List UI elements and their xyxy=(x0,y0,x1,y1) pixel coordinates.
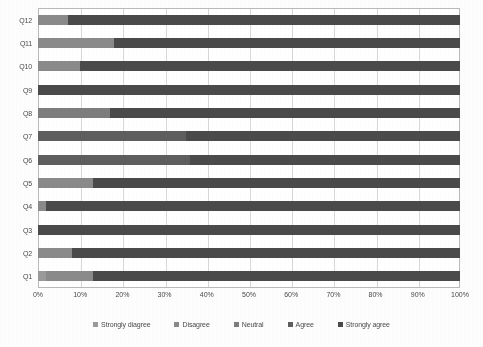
legend-item[interactable]: Agree xyxy=(288,321,314,328)
x-axis-tick-label: 90% xyxy=(411,291,425,298)
x-axis-tick-label: 50% xyxy=(242,291,256,298)
bar-row xyxy=(38,61,460,71)
bar-row xyxy=(38,271,460,281)
bar-segment xyxy=(38,108,110,118)
legend-swatch-icon xyxy=(234,322,239,327)
bar-segment xyxy=(93,178,460,188)
x-axis-tick-label: 70% xyxy=(326,291,340,298)
bar-segment xyxy=(114,38,460,48)
y-axis-tick-label: Q12 xyxy=(19,16,32,23)
chart-legend: Strongly diagreeDisagreeNeutralAgreeStro… xyxy=(0,316,483,332)
bar-segment xyxy=(186,131,460,141)
bar-segment xyxy=(46,201,460,211)
bar-segment xyxy=(38,15,68,25)
legend-swatch-icon xyxy=(338,322,343,327)
y-axis-tick-label: Q4 xyxy=(23,203,32,210)
x-axis-tick-label: 80% xyxy=(369,291,383,298)
legend-swatch-icon xyxy=(288,322,293,327)
x-axis-tick-label: 10% xyxy=(73,291,87,298)
y-axis-tick-label: Q5 xyxy=(23,180,32,187)
bar-segment xyxy=(38,85,460,95)
bar-row xyxy=(38,15,460,25)
legend-label: Neutral xyxy=(242,321,264,328)
legend-item[interactable]: Strongly diagree xyxy=(93,321,150,328)
legend-swatch-icon xyxy=(174,322,179,327)
bar-row xyxy=(38,248,460,258)
y-axis-tick-label: Q11 xyxy=(20,40,32,47)
bar-segment xyxy=(38,225,460,235)
bar-row xyxy=(38,38,460,48)
y-axis-tick-label: Q2 xyxy=(23,250,32,257)
y-axis-tick-label: Q7 xyxy=(23,133,32,140)
bar-row xyxy=(38,201,460,211)
legend-item[interactable]: Disagree xyxy=(174,321,209,328)
x-axis-tick-label: 60% xyxy=(284,291,298,298)
y-axis-tick-label: Q1 xyxy=(23,273,32,280)
bar-row xyxy=(38,108,460,118)
bar-segment xyxy=(38,201,46,211)
x-axis-labels: 0%10%20%30%40%50%60%70%80%90%100% xyxy=(38,291,460,303)
y-axis-tick-label: Q10 xyxy=(19,63,32,70)
legend-item[interactable]: Strongly agree xyxy=(338,321,390,328)
bar-segment xyxy=(38,271,46,281)
bars-container xyxy=(38,8,460,288)
bar-segment xyxy=(80,61,460,71)
legend-label: Disagree xyxy=(182,321,209,328)
bar-segment xyxy=(190,155,460,165)
x-axis-tick-label: 0% xyxy=(33,291,43,298)
legend-label: Agree xyxy=(296,321,314,328)
y-axis-labels: Q12Q11Q10Q9Q8Q7Q6Q5Q4Q3Q2Q1 xyxy=(0,8,36,288)
bar-segment xyxy=(38,178,93,188)
bar-segment xyxy=(38,131,186,141)
bar-segment xyxy=(68,15,460,25)
bar-segment xyxy=(38,61,80,71)
bar-row xyxy=(38,131,460,141)
x-axis-tick-label: 30% xyxy=(158,291,172,298)
y-axis-tick-label: Q8 xyxy=(23,110,32,117)
bar-row xyxy=(38,155,460,165)
legend-swatch-icon xyxy=(93,322,98,327)
bar-segment xyxy=(72,248,460,258)
legend-item[interactable]: Neutral xyxy=(234,321,264,328)
bar-row xyxy=(38,85,460,95)
bar-segment xyxy=(46,271,92,281)
bar-segment xyxy=(93,271,460,281)
bar-segment xyxy=(110,108,460,118)
bar-segment xyxy=(38,248,72,258)
x-axis-tick-label: 20% xyxy=(115,291,129,298)
y-axis-tick-label: Q9 xyxy=(23,86,32,93)
x-axis-tick-label: 40% xyxy=(200,291,214,298)
bar-row xyxy=(38,225,460,235)
legend-label: Strongly diagree xyxy=(101,321,150,328)
bar-segment xyxy=(38,155,190,165)
bar-row xyxy=(38,178,460,188)
bar-segment xyxy=(38,38,114,48)
y-axis-tick-label: Q6 xyxy=(23,156,32,163)
y-axis-tick-label: Q3 xyxy=(23,226,32,233)
x-axis-tick-label: 100% xyxy=(451,291,469,298)
legend-label: Strongly agree xyxy=(346,321,390,328)
stacked-bar-chart: Q12Q11Q10Q9Q8Q7Q6Q5Q4Q3Q2Q1 0%10%20%30%4… xyxy=(0,0,483,347)
